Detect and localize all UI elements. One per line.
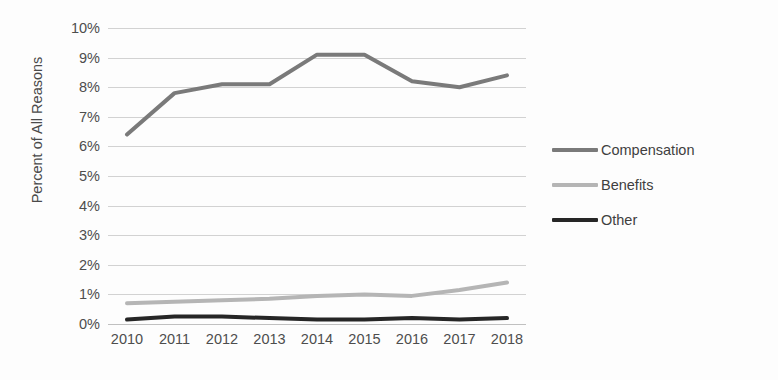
x-axis-tick-labels: 201020112012201320142015201620172018 bbox=[108, 332, 526, 356]
chart-legend: CompensationBenefitsOther bbox=[552, 132, 762, 237]
y-axis-title: Percent of All Reasons bbox=[29, 30, 45, 230]
series-line-compensation bbox=[127, 55, 507, 135]
legend-swatch-icon bbox=[552, 218, 598, 222]
legend-item[interactable]: Compensation bbox=[552, 132, 762, 167]
legend-label: Compensation bbox=[601, 142, 695, 158]
legend-swatch-icon bbox=[552, 183, 598, 187]
y-tick-label: 10% bbox=[56, 21, 100, 36]
series-line-other bbox=[127, 317, 507, 320]
y-tick-label: 9% bbox=[56, 51, 100, 66]
legend-label: Benefits bbox=[601, 177, 653, 193]
y-tick-label: 3% bbox=[56, 228, 100, 243]
y-tick-label: 2% bbox=[56, 258, 100, 273]
x-tick-label: 2018 bbox=[477, 332, 537, 348]
y-tick-label: 0% bbox=[56, 317, 100, 332]
y-tick-label: 4% bbox=[56, 199, 100, 214]
plot-area bbox=[108, 28, 526, 324]
y-tick-label: 6% bbox=[56, 139, 100, 154]
gridline bbox=[108, 324, 526, 325]
y-tick-label: 7% bbox=[56, 110, 100, 125]
chart-screenshot: Percent of All Reasons 0%1%2%3%4%5%6%7%8… bbox=[0, 0, 778, 380]
y-tick-label: 8% bbox=[56, 80, 100, 95]
legend-label: Other bbox=[601, 212, 637, 228]
series-layer bbox=[108, 28, 526, 324]
y-tick-label: 1% bbox=[56, 287, 100, 302]
legend-swatch-icon bbox=[552, 148, 598, 152]
series-line-benefits bbox=[127, 283, 507, 304]
y-tick-label: 5% bbox=[56, 169, 100, 184]
legend-item[interactable]: Other bbox=[552, 202, 762, 237]
y-axis-tick-labels: 0%1%2%3%4%5%6%7%8%9%10% bbox=[52, 28, 100, 324]
legend-item[interactable]: Benefits bbox=[552, 167, 762, 202]
